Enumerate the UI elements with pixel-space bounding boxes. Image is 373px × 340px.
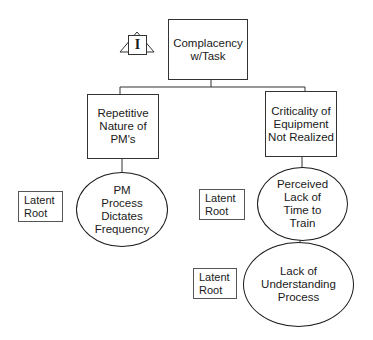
i-letter: I — [128, 35, 147, 55]
root-problem-box[interactable]: Complacency w/Task — [168, 19, 248, 80]
left-cause-box[interactable]: Repetitive Nature of PM's — [87, 94, 159, 159]
root-problem-text: Complacency w/Task — [173, 37, 243, 63]
latent-root-text: Latent Root — [199, 271, 230, 297]
right-cause-box[interactable]: Criticality of Equipment Not Realized — [265, 91, 337, 157]
right-root-cause-text-2: Lack of Understanding Process — [261, 265, 336, 304]
triangle-i-icon: I — [118, 30, 156, 58]
latent-root-text: Latent Root — [205, 192, 236, 218]
right-root-cause-ellipse-2[interactable]: Lack of Understanding Process — [243, 242, 354, 327]
latent-root-text: Latent Root — [24, 194, 55, 220]
latent-root-label-right-2: Latent Root — [193, 268, 237, 299]
latent-root-label-left: Latent Root — [18, 191, 63, 222]
right-cause-text: Criticality of Equipment Not Realized — [268, 105, 334, 144]
latent-root-label-right-1: Latent Root — [199, 189, 245, 220]
left-cause-text: Repetitive Nature of PM's — [97, 107, 148, 146]
right-root-cause-ellipse-1[interactable]: Perceived Lack of Time to Train — [257, 167, 348, 241]
left-root-cause-ellipse[interactable]: PM Process Dictates Frequency — [76, 172, 168, 247]
root-cause-diagram: I Complacency w/Task Repetitive Nature o… — [0, 0, 373, 340]
right-root-cause-text-1: Perceived Lack of Time to Train — [277, 178, 328, 230]
left-root-cause-text: PM Process Dictates Frequency — [95, 184, 149, 236]
